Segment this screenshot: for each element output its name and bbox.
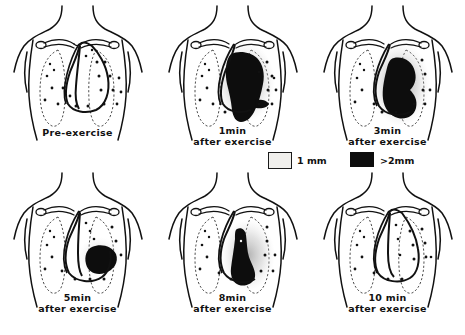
caption-line-1: 5min: [64, 292, 92, 303]
panel-caption-pre-exercise: Pre-exercise: [0, 128, 155, 139]
panel-caption-8-min: 8min after exercise: [155, 293, 310, 314]
st-black-region-3-min: [383, 58, 417, 119]
panel-pre-exercise: Pre-exercise: [0, 0, 155, 168]
panel-caption-10-min: 10 min after exercise: [310, 293, 465, 314]
caption-line-2: after exercise: [0, 304, 155, 315]
panel-caption-3-min: 3min after exercise: [310, 126, 465, 147]
caption-line-2: after exercise: [310, 304, 465, 315]
electrode-dots: [44, 49, 123, 108]
panel-caption-5-min: 5min after exercise: [0, 293, 155, 314]
caption-line-2: after exercise: [155, 137, 310, 148]
torso-diagram-pre-exercise: [0, 0, 155, 168]
caption-line-1: 8min: [219, 292, 247, 303]
caption-line-1: 1min: [219, 125, 247, 136]
caption-line-2: after exercise: [310, 137, 465, 148]
st-map-figure: Pre-exercise: [0, 0, 465, 335]
caption-line-1: Pre-exercise: [42, 127, 112, 138]
panel-8-min-after-exercise: 8min after exercise: [155, 167, 310, 335]
panel-1-min-after-exercise: 1min after exercise: [155, 0, 310, 168]
caption-line-1: 10 min: [368, 292, 406, 303]
panel-caption-1-min: 1min after exercise: [155, 126, 310, 147]
caption-line-2: after exercise: [155, 304, 310, 315]
panel-3-min-after-exercise: 3min after exercise: [310, 0, 465, 168]
caption-line-1: 3min: [374, 125, 402, 136]
panel-5-min-after-exercise: 5min after exercise: [0, 167, 155, 335]
panel-10-min-after-exercise: 10 min after exercise: [310, 167, 465, 335]
